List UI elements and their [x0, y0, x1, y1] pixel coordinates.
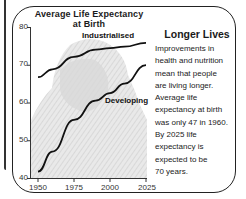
developing-label: Developing	[105, 96, 148, 105]
sidebar-line: mean that people	[155, 68, 235, 80]
sidebar-line: was only 47 in 1960.	[155, 117, 235, 129]
sidebar-line: expectancy is	[155, 141, 235, 153]
sidebar-line: Average life	[155, 92, 235, 104]
y-tick-label-50: 50	[12, 135, 28, 144]
y-tick-label-40: 40	[12, 173, 28, 182]
x-tick-label-1975: 1975	[59, 183, 89, 192]
x-tick-label-2000: 2000	[95, 183, 125, 192]
sidebar-line: expected to be	[155, 154, 235, 166]
industrialised-label: Industrialised	[82, 31, 134, 40]
sidebar-line: Improvements in	[155, 43, 235, 55]
sidebar-line: are living longer.	[155, 80, 235, 92]
x-tick-label-1950: 1950	[23, 183, 53, 192]
chart-title-line-2: at Birth	[30, 19, 148, 29]
sidebar-line: health and nutrition	[155, 55, 235, 67]
x-tick-label-2025: 2025	[132, 183, 162, 192]
sidebar-body: Improvements in health and nutrition mea…	[155, 43, 235, 178]
sidebar-line: 70 years.	[155, 166, 235, 178]
y-tick-label-80: 80	[12, 22, 28, 31]
chart-title-line-1: Average Life Expectancy	[30, 9, 148, 19]
sidebar-line: By 2025 life	[155, 129, 235, 141]
chart-title: Average Life Expectancy at Birth	[30, 9, 148, 29]
sidebar-heading: Longer Lives	[158, 28, 236, 40]
background-figure-image	[31, 39, 147, 178]
sidebar-line: expectancy at birth	[155, 104, 235, 116]
y-tick-label-60: 60	[12, 97, 28, 106]
y-tick-label-70: 70	[12, 59, 28, 68]
